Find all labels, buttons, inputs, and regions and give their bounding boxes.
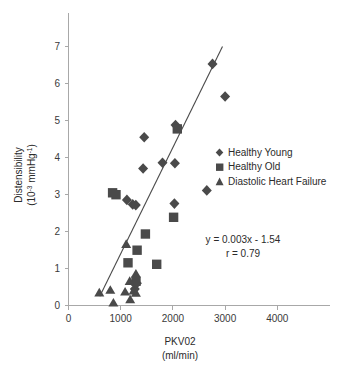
data-point-triangle <box>120 287 130 296</box>
data-point-square <box>152 260 161 269</box>
y-units-prefix: (10 <box>26 191 37 206</box>
y-tick-label: 3 <box>54 189 60 200</box>
series-healthy-young <box>122 59 230 295</box>
data-point-square <box>111 190 120 199</box>
chart-canvas: 0 1 2 3 4 5 6 7 0 1000 2000 300 <box>0 0 353 366</box>
regression-line <box>100 47 223 297</box>
data-point-diamond <box>138 163 148 174</box>
legend-label-diastolic-heart-failure: Diastolic Heart Failure <box>228 176 327 187</box>
y-units-middle: mmHg <box>26 153 37 185</box>
data-point-diamond <box>170 158 180 169</box>
x-axis-units: (ml/min) <box>162 350 198 361</box>
data-point-square <box>132 246 141 255</box>
legend-label-healthy-old: Healthy Old <box>228 161 280 172</box>
y-tick-label: 0 <box>54 300 60 311</box>
y-tick-label: 1 <box>54 263 60 274</box>
regression-annotation: y = 0.003x - 1.54 r = 0.79 <box>206 234 281 259</box>
y-tick-label: 5 <box>54 115 60 126</box>
data-point-diamond <box>158 158 168 169</box>
data-point-square <box>173 124 182 133</box>
x-tick-label: 3000 <box>214 313 237 324</box>
legend-marker-diamond <box>216 149 224 157</box>
y-ticks-group: 0 1 2 3 4 5 6 7 <box>54 41 68 311</box>
axes-group <box>69 13 331 306</box>
data-point-square <box>169 213 178 222</box>
x-ticks-group: 0 1000 2000 3000 4000 <box>66 306 289 325</box>
x-axis-title: PKV02 <box>164 336 196 347</box>
chart-legend: Healthy Young Healthy Old Diastolic Hear… <box>216 147 327 187</box>
x-tick-label: 2000 <box>162 313 185 324</box>
regression-equation: y = 0.003x - 1.54 <box>206 234 281 245</box>
y-axis-units: (10-3 mmHg-1) <box>26 144 37 206</box>
regression-correlation: r = 0.79 <box>226 248 261 259</box>
y-tick-label: 2 <box>54 226 60 237</box>
data-point-diamond <box>139 132 149 143</box>
y-tick-label: 7 <box>54 41 60 52</box>
data-point-square <box>141 229 150 238</box>
data-point-diamond <box>169 198 179 209</box>
y-axis-title-group: Distensibility (10-3 mmHg-1) <box>13 144 37 206</box>
data-point-triangle <box>121 239 131 248</box>
data-point-square <box>123 258 132 267</box>
data-point-diamond <box>202 185 212 196</box>
y-units-suffix: ) <box>26 144 37 147</box>
legend-marker-square <box>216 164 223 171</box>
x-axis-title-group: PKV02 (ml/min) <box>162 336 198 361</box>
y-tick-label: 4 <box>54 152 60 163</box>
data-point-triangle <box>108 298 118 307</box>
data-point-triangle <box>105 285 115 294</box>
data-point-diamond <box>220 91 230 102</box>
y-tick-label: 6 <box>54 78 60 89</box>
data-point-triangle <box>131 269 141 278</box>
legend-marker-triangle <box>216 178 224 186</box>
x-tick-label: 1000 <box>110 313 133 324</box>
x-tick-label: 4000 <box>266 313 289 324</box>
y-axis-title: Distensibility <box>13 147 24 203</box>
scatter-chart-figure: 0 1 2 3 4 5 6 7 0 1000 2000 300 <box>0 0 353 366</box>
legend-label-healthy-young: Healthy Young <box>228 147 293 158</box>
x-tick-label: 0 <box>66 313 72 324</box>
